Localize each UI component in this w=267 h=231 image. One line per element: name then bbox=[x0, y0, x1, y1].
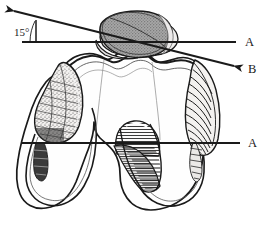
left-lower-hatch bbox=[33, 143, 49, 181]
angle-label: 15° bbox=[14, 26, 29, 38]
line-a-upper-label: A bbox=[245, 35, 254, 49]
figure-canvas: 15° A B A bbox=[0, 0, 267, 231]
line-a-lower-label: A bbox=[248, 136, 257, 150]
knee-axial-figure: 15° A B A bbox=[0, 0, 267, 231]
line-b-label: B bbox=[248, 62, 256, 76]
